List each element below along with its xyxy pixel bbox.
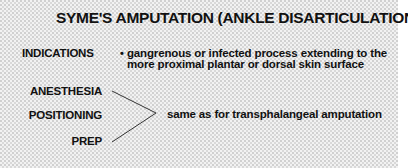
shared-procedure-text: same as for transphalangeal amputation [167,109,382,120]
bracket-icon [0,0,408,168]
